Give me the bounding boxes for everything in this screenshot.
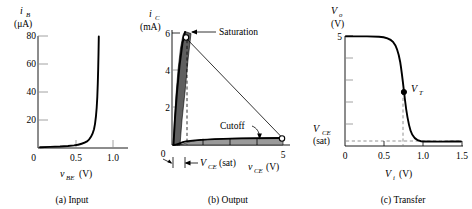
panel-transfer: V o (V) 5 V CE (sat)	[305, 0, 472, 209]
panel-c-xlabel: V i (V)	[385, 168, 412, 181]
panel-c-xlabel-unit: (V)	[399, 169, 412, 180]
panel-a-ylabel-symbol: i	[20, 5, 23, 16]
panel-a-ytick-20: 20	[27, 115, 37, 125]
panel-c-vt-annotation: V T	[411, 83, 424, 96]
panel-a-xlabel: v BE (V)	[60, 168, 92, 181]
panel-a-ylabel-subscript: B	[26, 11, 30, 18]
panel-b-caption: (b) Output	[208, 195, 248, 206]
panel-b-ytick-4: 4	[165, 66, 170, 76]
panel-c-vt-subscript: T	[419, 89, 424, 96]
panel-a-ytick-40: 40	[27, 87, 37, 97]
panel-c-plot: V o (V) 5 V CE (sat)	[305, 0, 472, 209]
panel-output: i C (mA) 6 4 2	[130, 0, 320, 209]
panel-input: i B (μA) 80 60 40 20 0	[0, 0, 150, 209]
panel-b-vce-sat-symbol: V	[200, 157, 208, 168]
panel-c-ytick-5: 5	[337, 32, 342, 42]
panel-b-xlabel-unit: (V)	[266, 162, 279, 173]
panel-c-ylabel-symbol: V	[331, 5, 339, 16]
panel-a-xlabel-subscript: BE	[66, 174, 75, 181]
panel-a-curve	[40, 37, 99, 148]
panel-c-xtick-15: 1.5	[456, 151, 468, 161]
panel-c-vt-marker	[401, 89, 406, 94]
panel-a-ytick-60: 60	[27, 59, 37, 69]
panel-b-ylabel-symbol: i	[149, 8, 152, 19]
panel-a-ylabel: i B (μA)	[14, 5, 32, 30]
panel-a-xtick-10: 1.0	[107, 153, 119, 163]
panel-c-xtick-0: 0	[343, 151, 348, 161]
panel-b-origin-annotation: 0	[161, 149, 173, 168]
panel-a-xlabel-unit: (V)	[79, 169, 92, 180]
panel-b-vce-sat-annotation: V CE (sat)	[185, 157, 236, 170]
panel-b-plot: i C (mA) 6 4 2	[130, 0, 320, 209]
panel-b-saturation-label: Saturation	[219, 27, 258, 37]
panel-c-caption: (c) Transfer	[381, 195, 426, 206]
panel-c-xtick-05: 0.5	[378, 151, 390, 161]
panel-a-plot: i B (μA) 80 60 40 20 0	[0, 0, 150, 209]
panel-b-ytick-6: 6	[165, 29, 170, 39]
panel-b-saturation-annotation: Saturation	[191, 27, 258, 37]
panel-a-xlabel-symbol: v	[60, 168, 65, 179]
panel-a-ylabel-unit: (μA)	[14, 19, 32, 30]
panel-b-ylabel-unit: (mA)	[140, 22, 161, 33]
panel-c-vce-sat-unit: (sat)	[313, 136, 330, 147]
panel-c-vt-symbol: V	[411, 83, 419, 94]
panel-c-xtick-10: 1.0	[417, 151, 429, 161]
panel-a-ytick-80: 80	[27, 31, 37, 41]
panel-b-vce-sat-subscript: CE	[208, 163, 218, 170]
panel-b-origin-label: 0	[161, 149, 166, 159]
panel-b-xlabel-symbol: v	[248, 161, 253, 172]
panel-c-vce-sat-symbol: V	[313, 123, 321, 134]
panel-c-ylabel-subscript: o	[339, 11, 343, 18]
origin-arrow-icon	[167, 159, 172, 163]
panel-c-ylabel-unit: (V)	[331, 19, 344, 30]
bjt-characteristics-figure: i B (μA) 80 60 40 20 0	[0, 0, 472, 209]
panel-b-ytick-2: 2	[165, 103, 170, 113]
panel-b-cutoff-label: Cutoff	[220, 121, 245, 131]
panel-c-ylabel: V o (V)	[331, 5, 344, 30]
panel-a-y-ticks	[38, 36, 48, 120]
panel-b-ylabel: i C (mA)	[140, 8, 161, 33]
panel-b-cutoff-marker	[279, 136, 284, 141]
panel-b-xlabel-subscript: CE	[254, 167, 264, 174]
panel-b-saturation-marker	[183, 35, 188, 40]
panel-b-ylabel-subscript: C	[155, 14, 160, 21]
panel-b-vce-sat-unit: (sat)	[219, 158, 236, 169]
panel-a-xtick-0: 0	[31, 153, 36, 163]
panel-c-vce-sat-subscript: CE	[322, 129, 332, 136]
panel-c-xlabel-subscript: i	[393, 174, 395, 181]
panel-b-xtick-5: 5	[281, 150, 286, 160]
panel-a-caption: (a) Input	[56, 195, 89, 206]
panel-c-xlabel-symbol: V	[385, 168, 393, 179]
panel-b-cutoff-annotation: Cutoff	[220, 121, 262, 139]
panel-c-vce-sat-label: V CE (sat)	[313, 123, 332, 147]
panel-a-xtick-05: 0.5	[70, 153, 82, 163]
saturation-arrow-icon	[191, 30, 197, 35]
panel-c-y-ticks	[345, 36, 353, 124]
panel-b-xlabel: v CE (V)	[248, 161, 279, 174]
